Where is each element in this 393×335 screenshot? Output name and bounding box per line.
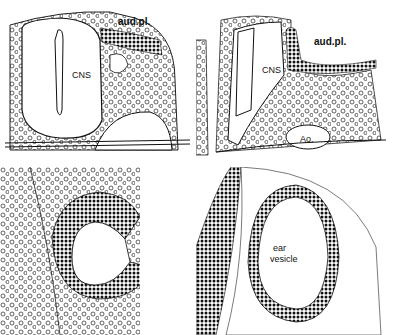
panel-bottom-left — [0, 167, 190, 335]
tissue-drawing-top-left — [0, 0, 190, 160]
panel-bottom-right: ear vesicle — [196, 167, 393, 335]
label-aud-pl: aud.pl. — [118, 17, 150, 27]
label-ao: Ao. — [300, 135, 314, 144]
label-cns: CNS — [72, 71, 91, 80]
tissue-drawing-bottom-left — [0, 167, 190, 335]
tissue-drawing-top-right — [196, 0, 393, 160]
tissue-drawing-bottom-right — [196, 167, 393, 335]
panel-top-right: CNS aud.pl. Ao. — [196, 0, 393, 160]
label-vesicle: vesicle — [270, 255, 298, 264]
panel-top-left: CNS aud.pl. — [0, 0, 190, 160]
label-cns: CNS — [262, 66, 281, 75]
label-ear: ear — [273, 244, 286, 253]
label-aud-pl: aud.pl. — [314, 37, 346, 47]
